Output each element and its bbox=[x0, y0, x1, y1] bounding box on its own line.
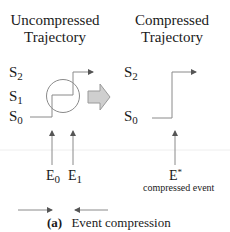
state-label-s1: S1 bbox=[9, 88, 23, 106]
state-label-s0: S0 bbox=[9, 108, 23, 126]
state-label-s2-compressed: S2 bbox=[124, 64, 138, 82]
staircase-path bbox=[30, 72, 93, 117]
caption-text: Event compression bbox=[71, 215, 170, 230]
compressed-trajectory bbox=[152, 72, 196, 118]
event-label-e1: E1 bbox=[68, 168, 82, 185]
right-title: Compressed Trajectory bbox=[122, 12, 222, 46]
figure-caption: (a) Event compression bbox=[47, 215, 171, 231]
state-label-s0-compressed: S0 bbox=[124, 108, 138, 126]
compressed-event-note: compressed event bbox=[143, 182, 214, 193]
compression-circle bbox=[47, 80, 80, 113]
event-label-e0: E0 bbox=[46, 168, 60, 185]
state-label-s2: S2 bbox=[9, 64, 23, 82]
left-title: Uncompressed Trajectory bbox=[2, 12, 108, 46]
step-path bbox=[152, 72, 196, 118]
caption-label: (a) bbox=[47, 215, 62, 230]
block-arrow-icon bbox=[88, 84, 110, 110]
uncompressed-trajectory bbox=[30, 72, 93, 117]
